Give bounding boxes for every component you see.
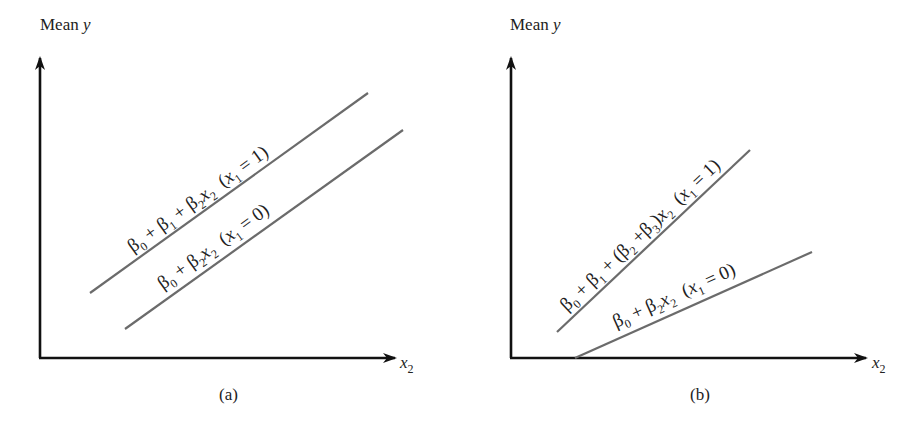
panel-caption-b: (b) <box>690 385 710 404</box>
equation-label-x1-0-b: β0 + β2x2 (x1 = 0) <box>609 258 740 335</box>
x-axis-label-a: x2 <box>399 353 414 376</box>
line-x1-equals-1-a <box>90 93 368 293</box>
panel-a: Mean y x2 β0 + β1 + β2x2 (x1 = 1) β0 + β… <box>39 15 414 404</box>
interaction-diagram: Mean y x2 β0 + β1 + β2x2 (x1 = 1) β0 + β… <box>0 0 923 425</box>
panel-b: Mean y x2 β0 + β1 + (β2 +β3)x2 (x1 = 1) … <box>510 15 886 404</box>
y-axis-label-b: Mean y <box>510 15 561 34</box>
equation-label-x1-1-a: β0 + β1 + β2x2 (x1 = 1) <box>123 141 274 259</box>
panel-caption-a: (a) <box>219 385 238 404</box>
y-axis-label-a: Mean y <box>40 15 91 34</box>
x-axis-label-b: x2 <box>871 353 886 376</box>
